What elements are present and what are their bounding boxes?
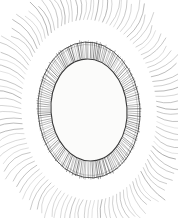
organism-illustration: Radiolarian / diatom microscopy line ill… (0, 0, 178, 218)
illustration-canvas: Radiolarian / diatom microscopy line ill… (0, 0, 178, 218)
